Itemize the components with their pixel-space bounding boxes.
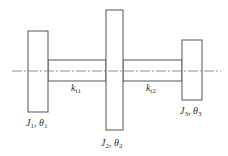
torsional-system-diagram: kt1 kt2 J1, θ1 J2, θ2 J3, θ3	[0, 0, 228, 156]
disk-3-label: J3, θ3	[180, 105, 202, 118]
disk-1-label: J1, θ1	[26, 117, 48, 130]
disk-2	[106, 10, 123, 130]
shaft-1-stiffness-label: kt1	[71, 82, 81, 95]
disk-2-label: J2, θ2	[101, 137, 123, 150]
shaft-2-stiffness-label: kt2	[146, 82, 156, 95]
disk-3	[182, 40, 202, 100]
shaft-1	[48, 60, 106, 81]
disk-1	[28, 31, 48, 112]
shaft-2	[123, 60, 182, 81]
